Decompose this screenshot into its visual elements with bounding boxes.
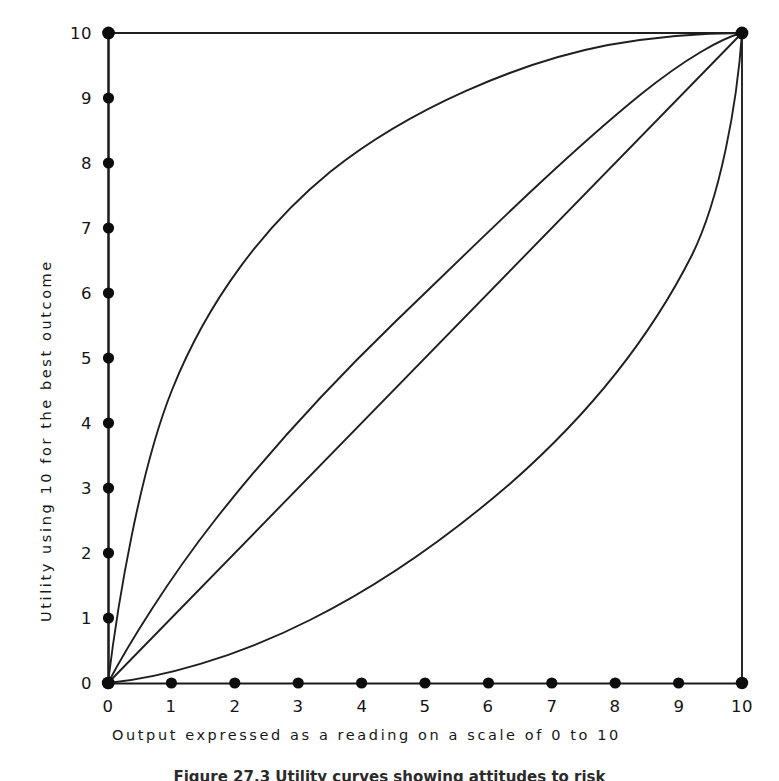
x-tick-marker-7	[546, 677, 557, 688]
x-tick-marker-5	[419, 677, 430, 688]
y-tick-label-2: 2	[48, 544, 92, 563]
y-tick-label-0: 0	[48, 674, 92, 693]
y-tick-marker-7	[103, 222, 114, 233]
y-tick-label-5: 5	[48, 349, 92, 368]
x-tick-label-5: 5	[420, 697, 431, 716]
figure-caption: Figure 27.3 Utility curves showing attit…	[0, 768, 779, 781]
y-tick-label-8: 8	[48, 154, 92, 173]
y-tick-marker-0	[102, 677, 114, 689]
x-tick-label-9: 9	[674, 697, 685, 716]
x-tick-label-2: 2	[230, 697, 241, 716]
x-tick-marker-2	[229, 677, 240, 688]
curve-linear	[108, 33, 742, 683]
x-tick-label-8: 8	[610, 697, 621, 716]
x-tick-label-10: 10	[731, 697, 753, 716]
corner-marker-max	[736, 27, 749, 40]
x-tick-marker-8	[610, 677, 621, 688]
x-tick-label-6: 6	[483, 697, 494, 716]
x-tick-label-7: 7	[547, 697, 558, 716]
y-tick-marker-9	[103, 92, 114, 103]
y-tick-label-4: 4	[48, 414, 92, 433]
y-axis-title: Utility using 10 for the best outcome	[38, 259, 54, 622]
x-tick-label-4: 4	[357, 697, 368, 716]
y-tick-marker-10	[102, 27, 115, 40]
x-tick-marker-6	[483, 677, 494, 688]
utility-curves	[108, 33, 742, 683]
y-tick-marker-6	[103, 287, 114, 298]
x-tick-marker-1	[166, 677, 177, 688]
x-tick-marker-9	[673, 677, 684, 688]
x-tick-marker-4	[356, 677, 367, 688]
y-tick-label-6: 6	[48, 284, 92, 303]
x-tick-label-0: 0	[103, 697, 114, 716]
y-tick-label-7: 7	[48, 219, 92, 238]
y-tick-marker-4	[103, 417, 114, 428]
y-tick-label-10: 10	[48, 24, 92, 43]
x-tick-label-1: 1	[166, 697, 177, 716]
y-tick-marker-2	[103, 547, 114, 558]
chart-plot-area	[0, 0, 779, 781]
y-tick-label-3: 3	[48, 479, 92, 498]
x-tick-marker-3	[293, 677, 304, 688]
x-tick-label-3: 3	[293, 697, 304, 716]
y-tick-marker-8	[103, 157, 114, 168]
y-tick-label-9: 9	[48, 89, 92, 108]
y-tick-label-1: 1	[48, 609, 92, 628]
x-tick-marker-10	[736, 677, 748, 689]
y-tick-marker-5	[103, 352, 114, 363]
y-tick-marker-1	[103, 612, 114, 623]
y-tick-marker-3	[103, 482, 114, 493]
utility-curves-figure: 10 9 8 7 6 5 4 3 2 1 0 0 1 2 3 4 5 6 7 8…	[0, 0, 779, 781]
x-axis-title: Output expressed as a reading on a scale…	[112, 727, 621, 743]
